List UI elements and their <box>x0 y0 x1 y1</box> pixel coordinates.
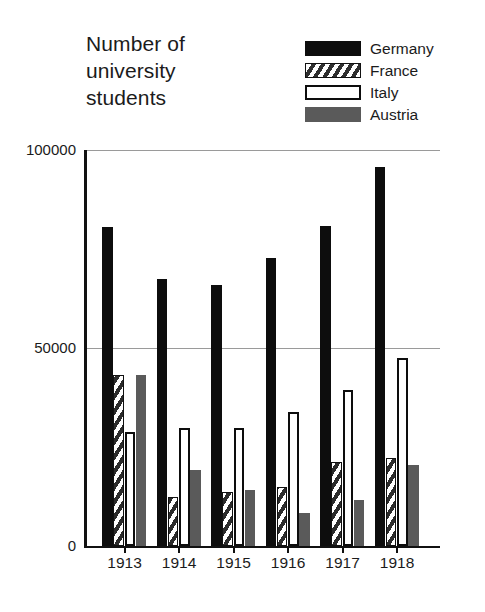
page-title: Number of university students <box>86 30 276 111</box>
x-tick-1916 <box>287 546 289 553</box>
y-axis-line <box>84 150 87 547</box>
bar-group-1916 <box>266 150 311 546</box>
x-tick-1914 <box>178 546 180 553</box>
bar-italy-1916[interactable] <box>288 412 299 546</box>
bar-austria-1916[interactable] <box>299 513 310 546</box>
legend-label-italy: Italy <box>370 84 398 101</box>
bar-group-1913 <box>102 150 147 546</box>
bar-germany-1914[interactable] <box>157 279 168 546</box>
legend-item-france: France <box>305 60 480 81</box>
bar-germany-1918[interactable] <box>375 167 386 546</box>
chart-legend: Germany France Italy Austria <box>305 38 480 126</box>
legend-swatch-france-icon <box>305 63 361 78</box>
y-tick-label-0: 0 <box>0 537 76 554</box>
bar-france-1917[interactable] <box>331 462 342 546</box>
bar-italy-1915[interactable] <box>234 428 245 546</box>
plot-area: 191319141915191619171918 <box>84 150 440 546</box>
y-tick-label-100000: 100000 <box>0 141 76 158</box>
bar-group-1917 <box>320 150 365 546</box>
title-line-2: university <box>86 57 276 84</box>
x-tick-label-1914: 1914 <box>149 554 209 572</box>
bar-austria-1915[interactable] <box>245 490 256 546</box>
bar-group-1914 <box>157 150 202 546</box>
x-tick-1917 <box>342 546 344 553</box>
legend-label-france: France <box>370 62 418 79</box>
legend-swatch-italy-icon <box>305 85 361 100</box>
title-line-1: Number of <box>86 30 276 57</box>
y-tick-label-50000: 50000 <box>0 339 76 356</box>
legend-swatch-germany-icon <box>305 41 361 56</box>
title-line-3: students <box>86 84 276 111</box>
bar-austria-1913[interactable] <box>136 375 147 546</box>
bar-austria-1914[interactable] <box>190 470 201 546</box>
bar-germany-1917[interactable] <box>320 226 331 546</box>
bar-germany-1913[interactable] <box>102 227 113 546</box>
bar-austria-1918[interactable] <box>408 465 419 546</box>
bar-france-1916[interactable] <box>277 487 288 546</box>
bar-germany-1915[interactable] <box>211 285 222 546</box>
bar-austria-1917[interactable] <box>354 500 365 546</box>
legend-label-austria: Austria <box>370 106 418 123</box>
bar-france-1914[interactable] <box>168 497 179 546</box>
x-axis-line <box>84 546 440 548</box>
x-tick-1913 <box>124 546 126 553</box>
bar-chart: Number of university students Germany Fr… <box>0 0 485 612</box>
bar-italy-1918[interactable] <box>397 358 408 546</box>
bar-italy-1913[interactable] <box>125 432 136 546</box>
legend-swatch-austria-icon <box>305 107 361 122</box>
bar-group-1918 <box>375 150 420 546</box>
bar-france-1915[interactable] <box>222 492 233 546</box>
bar-italy-1914[interactable] <box>179 428 190 546</box>
legend-label-germany: Germany <box>370 40 434 57</box>
x-tick-label-1918: 1918 <box>367 554 427 572</box>
x-tick-label-1917: 1917 <box>313 554 373 572</box>
x-tick-1915 <box>233 546 235 553</box>
x-tick-label-1913: 1913 <box>95 554 155 572</box>
legend-item-italy: Italy <box>305 82 480 103</box>
bar-france-1918[interactable] <box>386 458 397 546</box>
bar-group-1915 <box>211 150 256 546</box>
legend-item-germany: Germany <box>305 38 480 59</box>
x-tick-label-1915: 1915 <box>204 554 264 572</box>
legend-item-austria: Austria <box>305 104 480 125</box>
x-tick-label-1916: 1916 <box>258 554 318 572</box>
bar-france-1913[interactable] <box>113 375 124 546</box>
x-tick-1918 <box>396 546 398 553</box>
bar-germany-1916[interactable] <box>266 258 277 546</box>
bar-italy-1917[interactable] <box>343 390 354 546</box>
